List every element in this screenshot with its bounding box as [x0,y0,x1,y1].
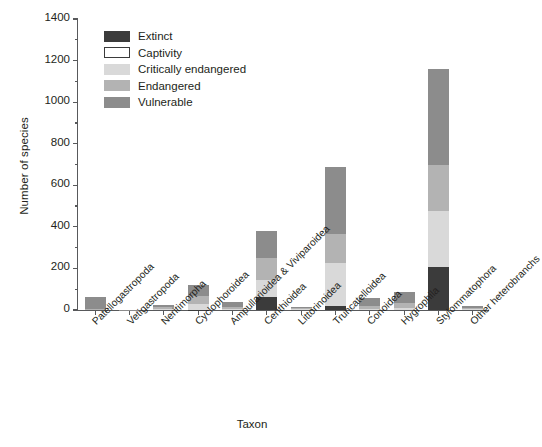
tick-mark [75,122,79,123]
bar-segment-endangered [325,234,346,263]
bar-segment-vulnerable [256,231,277,258]
y-tick-label: 0 [64,302,70,314]
bar-segment-endangered [428,165,449,212]
x-axis-title: Taxon [0,418,504,430]
legend-swatch [104,31,130,42]
chart-legend: ExtinctCaptivityCritically endangeredEnd… [104,28,246,111]
legend-swatch [104,64,130,75]
y-tick-label: 1400 [44,11,70,23]
tick-mark [73,102,78,103]
y-tick-label: 200 [51,260,70,272]
tick-mark [75,81,79,82]
legend-swatch [104,47,130,58]
tick-mark [75,289,79,290]
legend-label: Extinct [138,30,173,42]
tick-mark [75,39,79,40]
bar-segment-vulnerable [428,69,449,165]
tick-mark [75,205,79,206]
bar-segment-critically-endangered [428,211,449,267]
bar-segment-vulnerable [325,167,346,234]
tick-mark [73,143,78,144]
legend-label: Critically endangered [138,63,246,75]
tick-mark [73,309,78,310]
y-tick-label: 600 [51,177,70,189]
legend-item: Extinct [104,28,246,45]
legend-swatch [104,80,130,91]
legend-swatch [104,97,130,108]
tick-mark [73,268,78,269]
legend-item: Endangered [104,78,246,95]
legend-label: Vulnerable [138,96,193,108]
y-tick-label: 400 [51,219,70,231]
tick-mark [75,247,79,248]
tick-mark [73,226,78,227]
legend-label: Captivity [138,47,182,59]
legend-item: Captivity [104,45,246,62]
legend-item: Vulnerable [104,94,246,111]
tick-mark [73,185,78,186]
y-tick-label: 800 [51,136,70,148]
tick-mark [75,164,79,165]
bar-stylommatophora [428,69,449,310]
tick-mark [73,18,78,19]
tick-mark [73,60,78,61]
legend-item: Critically endangered [104,61,246,78]
y-tick-label: 1000 [44,94,70,106]
y-tick-label: 1200 [44,53,70,65]
y-axis-title: Number of species [18,76,30,256]
legend-label: Endangered [138,80,201,92]
